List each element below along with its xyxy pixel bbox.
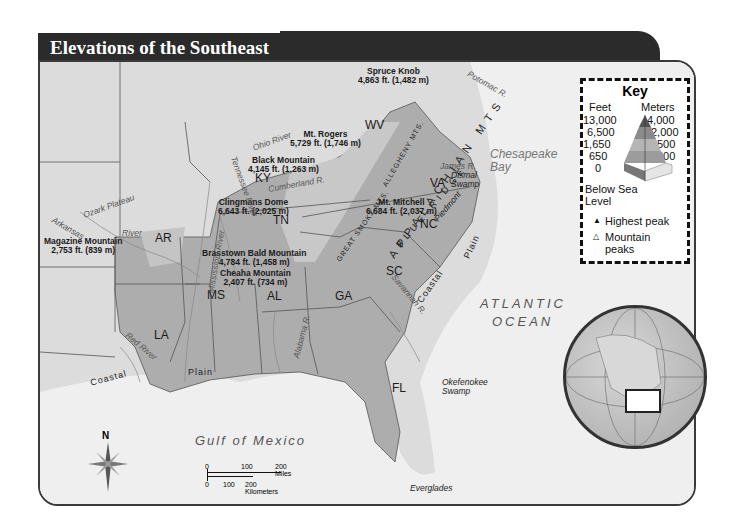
key-mountain-peaks-label: Mountain peaks [605, 231, 675, 255]
map-key: Key Feet Meters 13,000 6,500 1,650 650 0… [580, 78, 690, 264]
state-label-ga: GA [335, 290, 352, 303]
highest-peak-icon: ▲ [593, 216, 601, 225]
state-label-ar: AR [155, 232, 172, 245]
label-atlantic: ATLANTIC [480, 297, 566, 311]
key-feet-value: 0 [595, 162, 601, 174]
label-plain-gulf: Plain [188, 368, 213, 378]
locator-rectangle [626, 390, 660, 412]
state-label-wv: WV [365, 119, 384, 132]
scale-miles-100: 100 [241, 463, 253, 470]
scale-miles-200: 200 Miles [275, 463, 291, 477]
label-dismal-swamp: Dismal Swamp [451, 171, 487, 190]
key-meters-header: Meters [641, 101, 675, 113]
globe-grid-icon [566, 308, 704, 446]
title-tab-background [280, 31, 660, 63]
label-chesapeake-bay: Chesapeake Bay [490, 148, 560, 174]
peak-mt-rogers: Mt. Rogers5,729 ft. (1,746 m) [290, 130, 361, 149]
label-okefenokee-swamp: Okefenokee Swamp [442, 378, 502, 397]
label-everglades: Everglades [410, 484, 453, 493]
compass-north-label: N [102, 430, 109, 441]
globe-locator [563, 305, 707, 449]
label-river: River [122, 229, 142, 238]
peak-black-mountain: Black Mountain4,145 ft. (1,263 m) [248, 156, 319, 175]
scale-km-0: 0 [205, 481, 209, 488]
state-label-la: LA [154, 329, 169, 342]
label-gulf-of-mexico: Gulf of Mexico [195, 434, 306, 448]
compass-star-icon [88, 442, 128, 492]
scale-km-100: 100 [223, 481, 235, 488]
key-feet-header: Feet [589, 101, 611, 113]
scale-km-line [207, 476, 253, 477]
peak-cheaha: Cheaha Mountain2,407 ft. (734 m) [220, 269, 291, 288]
scale-km-200: 200 Kilometers [245, 481, 278, 495]
key-feet-value: 13,000 [583, 114, 617, 126]
key-highest-peak-label: Highest peak [605, 215, 669, 227]
label-ocean: OCEAN [492, 315, 553, 329]
map-title: Elevations of the Southeast [38, 33, 300, 63]
key-title: Key [583, 83, 687, 99]
key-feet-value: 650 [589, 150, 607, 162]
mountain-peak-icon: △ [593, 232, 599, 241]
state-label-fl: FL [392, 382, 406, 395]
peak-spruce-knob: Spruce Knob4,863 ft. (1,482 m) [358, 67, 429, 86]
key-feet-value: 6,500 [587, 126, 615, 138]
key-below-sea-level: Below Sea Level [585, 183, 645, 207]
elevation-pyramid-icon [617, 113, 677, 183]
state-label-al: AL [267, 290, 282, 303]
scale-miles-line [207, 472, 281, 473]
key-feet-value: 1,650 [583, 138, 611, 150]
peak-magazine: Magazine Mountain2,753 ft. (839 m) [44, 237, 122, 256]
